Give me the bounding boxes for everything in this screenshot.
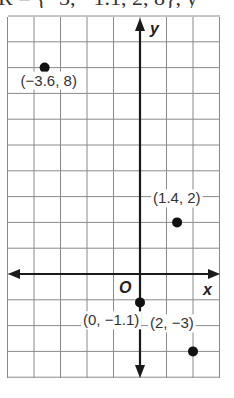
y-axis-label: y	[149, 20, 160, 37]
point-label: (1.4, 2)	[153, 189, 201, 206]
y-axis-down-arrow-icon	[135, 365, 145, 378]
data-point	[135, 297, 145, 307]
x-axis-left-arrow-icon	[8, 269, 20, 279]
data-points: (−3.6, 8)(1.4, 2)(0, −1.1)(2, −3)	[19, 63, 203, 357]
y-axis-up-arrow-icon	[135, 18, 145, 31]
data-point	[172, 217, 182, 227]
point-label: (−3.6, 8)	[21, 72, 77, 89]
x-axis-label: x	[202, 281, 213, 298]
point-label: (0, −1.1)	[83, 311, 139, 328]
data-point	[188, 346, 198, 356]
x-axis-right-arrow-icon	[208, 269, 220, 279]
point-label: (2, −3)	[150, 314, 194, 331]
origin-label: O	[119, 279, 132, 296]
coordinate-plane: y x O (−3.6, 8)(1.4, 2)(0, −1.1)(2, −3)	[0, 0, 234, 398]
